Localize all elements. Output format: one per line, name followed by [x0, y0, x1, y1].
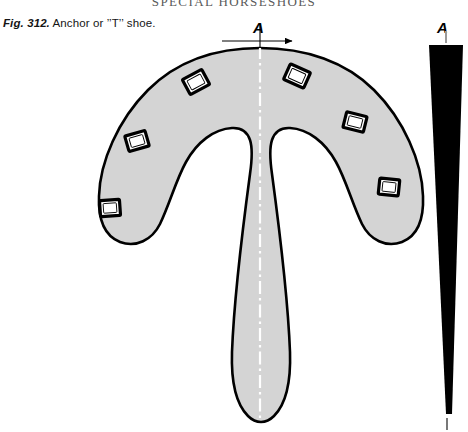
nail-hole: [378, 178, 400, 196]
section-profile: [429, 45, 463, 414]
figure-page: SPECIAL HORSESHOES Fig. 312. Anchor or ’…: [0, 0, 468, 432]
nail-hole: [343, 112, 367, 133]
section-a-a-view: [429, 31, 463, 430]
nail-hole: [125, 130, 150, 151]
figure-artwork: [0, 0, 468, 432]
nail-hole: [99, 199, 120, 216]
